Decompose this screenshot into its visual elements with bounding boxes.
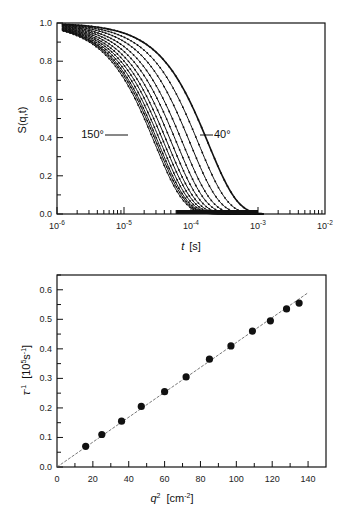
y-tick-label: 0.4 <box>39 133 52 143</box>
data-point <box>206 356 213 363</box>
data-point <box>118 418 125 425</box>
annotation-150-degrees: 150° <box>81 128 128 140</box>
y-tick-label: 1.0 <box>39 18 52 28</box>
x-tick-label: 140 <box>301 474 316 484</box>
y-tick-label: 0.4 <box>39 344 52 354</box>
y-axis-label: S(q,t) <box>16 107 28 134</box>
y-tick-label: 0.2 <box>39 403 52 413</box>
x-tick-label: 120 <box>265 474 280 484</box>
data-points <box>82 299 303 449</box>
svg-text:40°: 40° <box>214 128 231 140</box>
data-point <box>296 299 303 306</box>
y-tick-label: 0.6 <box>39 285 52 295</box>
x-tick-label: 10-4 <box>183 219 199 231</box>
y-tick-label: 0.2 <box>39 171 52 181</box>
svg-text:150°: 150° <box>81 128 104 140</box>
baseline-noise <box>176 210 258 214</box>
decay-curve <box>62 27 263 214</box>
data-point <box>82 443 89 450</box>
data-point <box>249 328 256 335</box>
x-tick-label: 10-2 <box>317 219 333 231</box>
plot-frame <box>57 275 326 467</box>
x-tick-label: 100 <box>229 474 244 484</box>
y-axis-ticks: 0.00.20.40.60.81.0 <box>39 18 63 219</box>
data-point <box>267 317 274 324</box>
x-tick-label: 20 <box>88 474 98 484</box>
y-axis-label: τ-1[105s-1] <box>20 345 32 395</box>
data-point <box>227 342 234 349</box>
decay-curve <box>62 25 263 214</box>
decay-curve <box>62 26 263 214</box>
data-point <box>138 403 145 410</box>
x-tick-label: 60 <box>160 474 170 484</box>
decay-curve <box>62 24 263 213</box>
x-tick-label: 40 <box>124 474 134 484</box>
decay-curve <box>62 27 263 214</box>
y-tick-label: 0.8 <box>39 56 52 66</box>
y-axis-ticks: 0.00.10.20.30.40.50.6 <box>39 275 63 472</box>
x-axis-label: q2[cm-2] <box>150 492 193 504</box>
y-tick-label: 0.1 <box>39 432 52 442</box>
y-tick-label: 0.3 <box>39 373 52 383</box>
data-point <box>283 305 290 312</box>
correlation-decay-chart: 0.00.20.40.60.81.0 10-610-510-410-310-2 … <box>0 0 348 260</box>
decay-curves <box>61 23 263 214</box>
y-tick-label: 0.0 <box>39 209 52 219</box>
x-axis-label: t[s] <box>181 240 201 252</box>
data-point <box>161 388 168 395</box>
x-tick-label: 10-5 <box>116 219 132 231</box>
x-tick-label: 10-3 <box>250 219 266 231</box>
data-point <box>98 431 105 438</box>
y-tick-label: 0.6 <box>39 94 52 104</box>
x-axis-ticks: 020406080100120140 <box>54 461 315 484</box>
x-tick-label: 0 <box>54 474 59 484</box>
x-tick-label: 10-6 <box>49 219 65 231</box>
relaxation-rate-chart: 0.00.10.20.30.40.50.6 020406080100120140… <box>0 260 348 523</box>
data-point <box>183 373 190 380</box>
y-tick-label: 0.0 <box>39 462 52 472</box>
decay-curve <box>62 25 263 214</box>
x-tick-label: 80 <box>195 474 205 484</box>
y-tick-label: 0.5 <box>39 314 52 324</box>
